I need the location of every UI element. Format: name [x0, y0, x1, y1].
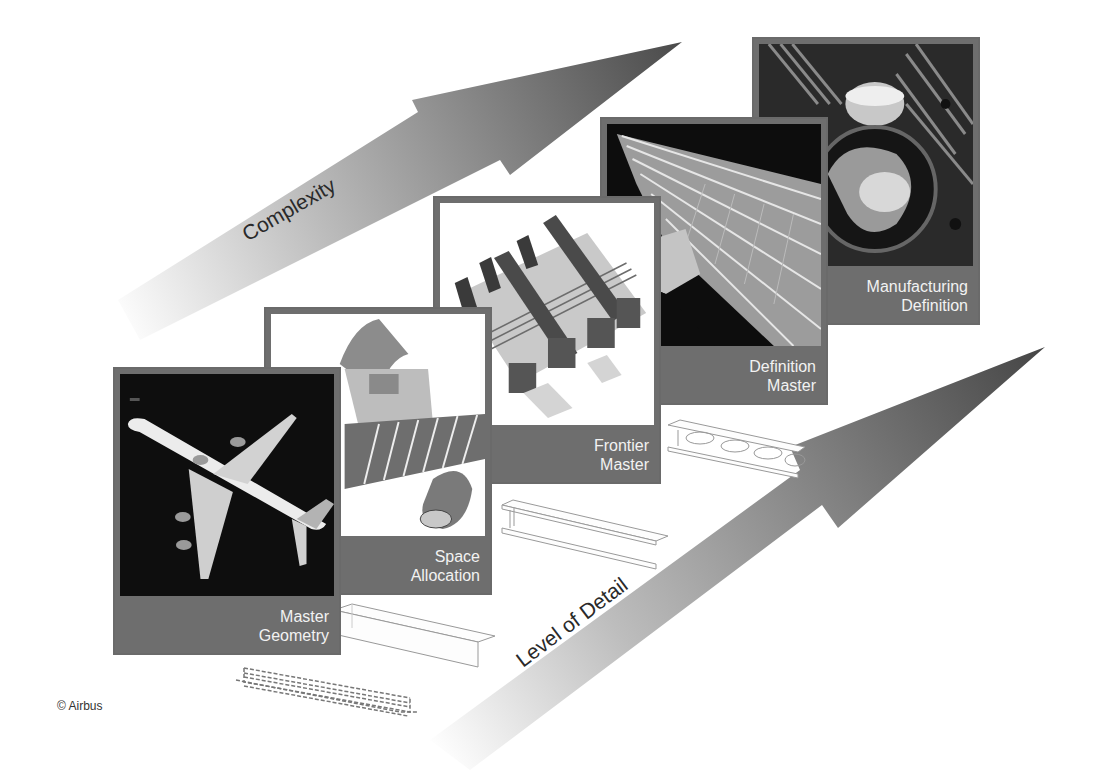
dashed-wireframe-beam-icon	[236, 668, 418, 716]
box-beam-icon	[334, 604, 495, 667]
stage-panel-master-geometry: Master Geometry	[113, 367, 341, 655]
stage-caption: Definition Master	[749, 357, 816, 395]
stage-caption: Master Geometry	[259, 607, 329, 645]
stage-caption: Space Allocation	[411, 547, 480, 585]
aircraft-model-image	[120, 374, 334, 596]
i-beam-with-holes-icon	[668, 420, 805, 478]
stage-caption: Frontier Master	[594, 436, 649, 474]
stage-caption: Manufacturing Definition	[867, 277, 968, 315]
copyright-notice: © Airbus	[57, 699, 103, 713]
i-beam-icon	[502, 500, 668, 569]
